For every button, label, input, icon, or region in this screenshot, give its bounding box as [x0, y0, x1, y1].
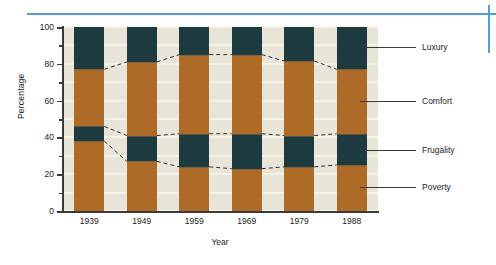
- x-axis-label: Year: [0, 237, 440, 247]
- segment-divider: [232, 55, 262, 56]
- segment-divider: [179, 55, 209, 56]
- x-tick-label: 1949: [132, 216, 151, 226]
- y-tick-minor: [59, 193, 62, 195]
- x-tick-label: 1979: [290, 216, 309, 226]
- legend-item-poverty[interactable]: Poverty: [360, 182, 480, 192]
- x-tick-label: 1939: [80, 216, 99, 226]
- y-tick-major: [57, 174, 62, 176]
- bar-segment-poverty[interactable]: [127, 161, 157, 211]
- y-tick-major: [57, 64, 62, 66]
- x-axis: [62, 211, 379, 213]
- legend-item-comfort[interactable]: Comfort: [360, 96, 480, 106]
- segment-divider: [284, 61, 314, 62]
- bar-segment-poverty[interactable]: [74, 141, 104, 211]
- chart-figure: 020406080100 Percentage Year 19391949195…: [0, 0, 496, 265]
- bar-segment-comfort[interactable]: [284, 61, 314, 136]
- bar-segment-poverty[interactable]: [284, 167, 314, 211]
- y-tick-major: [57, 27, 62, 29]
- y-tick-minor: [59, 156, 62, 158]
- legend-label: Luxury: [422, 42, 448, 52]
- segment-divider: [127, 62, 157, 63]
- segment-divider: [74, 126, 104, 127]
- bar-segment-frugality[interactable]: [74, 126, 104, 141]
- segment-divider: [74, 141, 104, 142]
- bars-layer: [63, 27, 378, 211]
- segment-divider: [127, 136, 157, 137]
- y-tick-label: 100: [40, 22, 54, 32]
- y-tick-major: [57, 137, 62, 139]
- bar-segment-frugality[interactable]: [284, 136, 314, 167]
- plot-area: [63, 27, 378, 211]
- y-axis-label: Percentage: [16, 74, 26, 119]
- bar-group[interactable]: [232, 27, 262, 211]
- y-tick-label: 60: [45, 96, 54, 106]
- y-axis: 020406080100: [62, 26, 64, 212]
- bar-segment-comfort[interactable]: [74, 69, 104, 126]
- bar-segment-frugality[interactable]: [232, 134, 262, 169]
- bar-segment-comfort[interactable]: [179, 55, 209, 134]
- legend-item-luxury[interactable]: Luxury: [360, 42, 480, 52]
- segment-divider: [179, 167, 209, 168]
- segment-divider: [284, 136, 314, 137]
- bar-segment-luxury[interactable]: [179, 27, 209, 55]
- bar-segment-luxury[interactable]: [74, 27, 104, 69]
- legend-label: Poverty: [422, 182, 451, 192]
- right-accent-rule: [488, 5, 490, 53]
- bar-segment-frugality[interactable]: [127, 136, 157, 162]
- legend-leader-line: [360, 47, 416, 48]
- bar-segment-frugality[interactable]: [179, 134, 209, 167]
- segment-divider: [232, 169, 262, 170]
- segment-divider: [284, 167, 314, 168]
- top-accent-rule: [27, 13, 496, 15]
- legend-leader-line: [360, 187, 416, 188]
- segment-divider: [337, 165, 367, 166]
- legend-label: Frugality: [422, 145, 455, 155]
- bar-segment-poverty[interactable]: [232, 169, 262, 211]
- segment-divider: [127, 161, 157, 162]
- legend-leader-line: [360, 150, 416, 151]
- bar-segment-comfort[interactable]: [127, 62, 157, 136]
- segment-divider: [337, 134, 367, 135]
- bar-segment-luxury[interactable]: [284, 27, 314, 61]
- segment-divider: [337, 69, 367, 70]
- bar-group[interactable]: [284, 27, 314, 211]
- bar-segment-comfort[interactable]: [232, 55, 262, 134]
- y-tick-label: 40: [45, 132, 54, 142]
- y-tick-minor: [59, 82, 62, 84]
- y-tick-label: 80: [45, 59, 54, 69]
- legend-leader-line: [360, 101, 416, 102]
- y-tick-major: [57, 101, 62, 103]
- bar-group[interactable]: [74, 27, 104, 211]
- legend-label: Comfort: [422, 96, 452, 106]
- x-tick-label: 1969: [237, 216, 256, 226]
- bar-group[interactable]: [179, 27, 209, 211]
- y-tick-minor: [59, 119, 62, 121]
- segment-divider: [232, 134, 262, 135]
- bar-segment-luxury[interactable]: [232, 27, 262, 55]
- legend-item-frugality[interactable]: Frugality: [360, 145, 480, 155]
- segment-divider: [179, 134, 209, 135]
- bar-group[interactable]: [127, 27, 157, 211]
- segment-divider: [74, 69, 104, 70]
- x-tick-label: 1959: [185, 216, 204, 226]
- bar-segment-luxury[interactable]: [127, 27, 157, 62]
- y-tick-label: 0: [49, 206, 54, 216]
- x-tick-label: 1988: [342, 216, 361, 226]
- bar-segment-poverty[interactable]: [179, 167, 209, 211]
- y-tick-minor: [59, 45, 62, 47]
- y-tick-label: 20: [45, 169, 54, 179]
